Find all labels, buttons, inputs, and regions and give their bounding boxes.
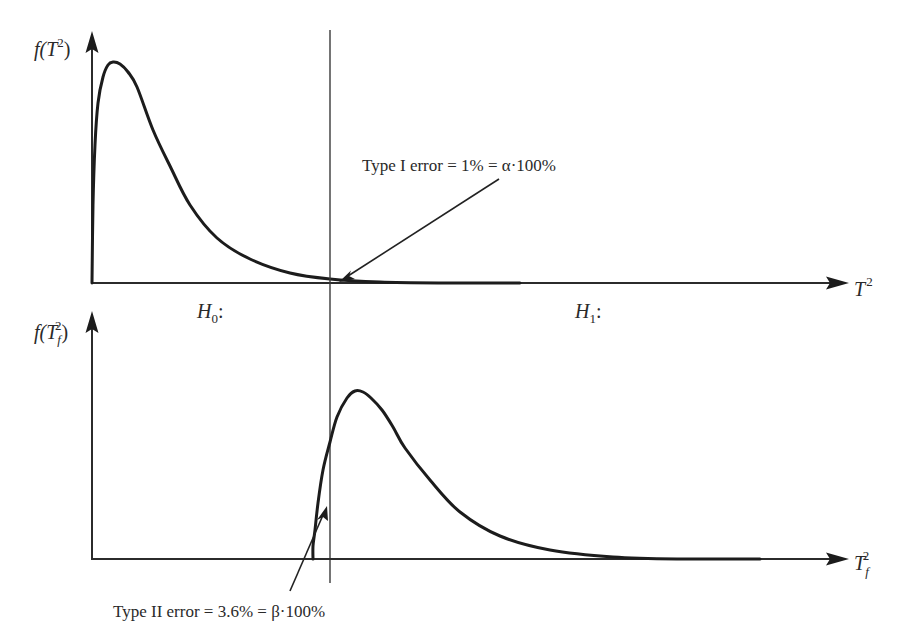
bottom-y-axis-label: f(Tf2) — [34, 318, 68, 347]
type1-error-note: Type I error = 1% = α·100% — [362, 156, 556, 175]
top-x-axis-label: T2 — [854, 274, 873, 300]
top-panel: f(T2) T2 Type I error = 1% = α·100% — [34, 31, 873, 300]
type2-error-note: Type II error = 3.6% = β·100% — [113, 602, 325, 621]
type2-pointer-line — [290, 515, 323, 591]
faulty-density-curve — [313, 391, 760, 560]
h0-region-label: H0: — [196, 300, 224, 326]
hypothesis-test-figure: f(T2) T2 Type I error = 1% = α·100% H0: … — [0, 0, 901, 641]
h1-region-label: H1: — [574, 300, 602, 326]
top-y-axis-label: f(T2) — [34, 35, 71, 61]
bottom-x-axis-label: Tf2 — [854, 548, 871, 579]
bottom-panel: f(Tf2) Tf2 Type II error = 3.6% = β·100% — [34, 311, 871, 621]
type1-pointer-line — [348, 179, 499, 276]
